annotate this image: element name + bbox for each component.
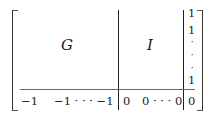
bottom-row-i-first: 0 [123, 94, 130, 108]
bottom-row-i-rest: 0 · · · 0 [142, 94, 182, 108]
left-bracket [12, 10, 18, 111]
right-column-entry-last: 1 [188, 73, 195, 87]
block-divider-vertical-1 [118, 10, 119, 110]
bottom-row-g-first: −1 [21, 94, 38, 108]
right-column-vdots: · · · [188, 38, 196, 72]
block-identity: I [147, 36, 153, 54]
block-divider-vertical-2 [183, 10, 184, 110]
right-column-entry-2: 1 [188, 23, 195, 37]
block-divider-horizontal [20, 89, 195, 90]
bottom-row-g-rest: −1 · · · −1 [54, 94, 114, 108]
vdot: · [188, 64, 196, 72]
right-column-entry-1: 1 [188, 6, 195, 20]
vdot: · [188, 51, 196, 59]
block-g: G [61, 36, 73, 54]
vdot: · [188, 38, 196, 46]
bottom-row-last: 0 [188, 94, 195, 108]
right-bracket [197, 10, 203, 111]
